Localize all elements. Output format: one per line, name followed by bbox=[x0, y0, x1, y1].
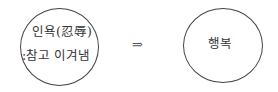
left-node-label-line2: :참고 이겨냄 bbox=[22, 50, 90, 63]
implies-arrow-icon: ⇒ bbox=[132, 38, 143, 51]
left-node-circle bbox=[20, 8, 99, 86]
left-node-label-line1: 인욕(忍辱) bbox=[32, 26, 92, 39]
right-node-label: 행복 bbox=[208, 38, 232, 51]
